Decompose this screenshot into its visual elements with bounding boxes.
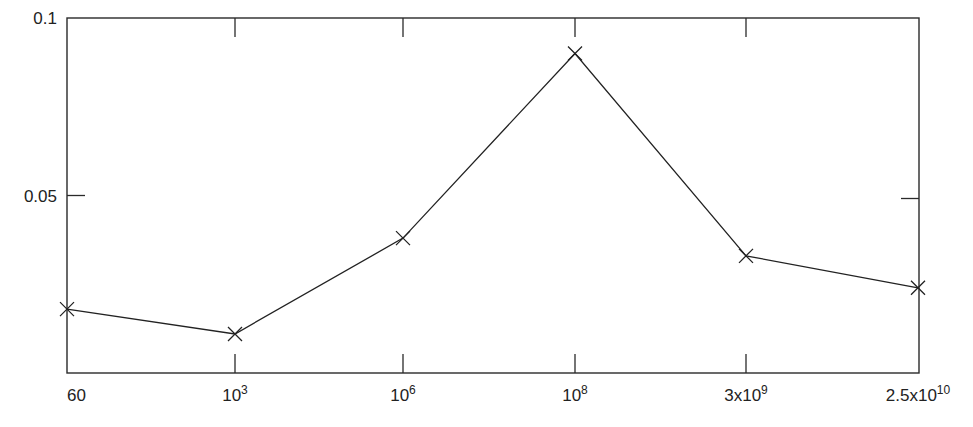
y-axis-labels: 0.050.1: [24, 9, 57, 206]
x-marker-icon: [568, 47, 582, 61]
x-marker-icon: [739, 249, 753, 263]
x-marker-icon: [911, 281, 925, 295]
data-series: [60, 47, 925, 341]
x-axis-labels: 601031061083x1092.5x1010: [67, 383, 951, 405]
plot-frame: [67, 18, 919, 373]
x-tick-label: 60: [67, 386, 86, 405]
y-tick-label: 0.1: [33, 9, 57, 28]
x-marker-icon: [228, 327, 242, 341]
series-line: [67, 54, 918, 334]
x-tick-label: 3x109: [724, 383, 768, 405]
axis-ticks: [67, 18, 919, 373]
x-marker-icon: [396, 231, 410, 245]
x-tick-label: 106: [390, 383, 416, 405]
line-chart: 0.050.1 601031061083x1092.5x1010: [0, 0, 973, 427]
plot-border: [67, 18, 919, 373]
x-tick-label: 108: [562, 383, 588, 405]
x-tick-label: 2.5x1010: [886, 383, 951, 405]
y-tick-label: 0.05: [24, 187, 57, 206]
x-tick-label: 103: [222, 383, 248, 405]
